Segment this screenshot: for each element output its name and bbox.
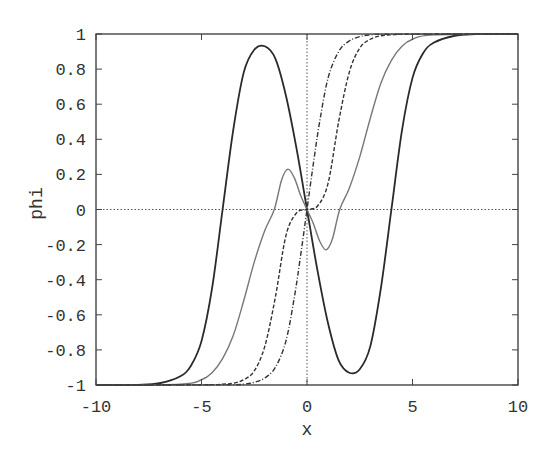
x-tick-label: 5 [407, 398, 417, 417]
x-tick-label: 10 [508, 398, 528, 417]
x-tick-label: -5 [191, 398, 211, 417]
y-tick-label: 0.2 [55, 166, 86, 185]
y-tick-label: -0.8 [45, 342, 86, 361]
y-tick-label: -1 [66, 377, 86, 396]
y-tick-label: -0.4 [45, 272, 86, 291]
y-tick-label: 0.4 [55, 131, 86, 150]
x-tick-labels: -10-50510 [81, 398, 529, 417]
y-tick-label: 0 [76, 202, 86, 221]
y-axis-label: phi [27, 187, 47, 219]
x-tick-label: -10 [81, 398, 112, 417]
y-tick-label: 0.8 [55, 61, 86, 80]
x-tick-label: 0 [302, 398, 312, 417]
x-axis-label: x [302, 420, 313, 440]
y-tick-label: 1 [76, 26, 86, 45]
line-chart: -10-50510 -1-0.8-0.6-0.4-0.200.20.40.60.… [0, 0, 553, 458]
y-tick-labels: -1-0.8-0.6-0.4-0.200.20.40.60.81 [45, 26, 86, 396]
y-tick-label: -0.2 [45, 237, 86, 256]
y-tick-label: 0.6 [55, 96, 86, 115]
y-tick-label: -0.6 [45, 307, 86, 326]
